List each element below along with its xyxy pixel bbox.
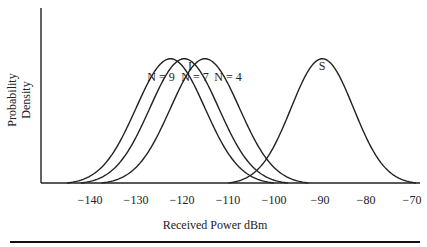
x-tick-label: −100 <box>262 193 287 207</box>
x-tick-label: −70 <box>403 193 422 207</box>
annotation-n9: N = 9 <box>147 70 174 84</box>
x-tick-label: −130 <box>124 193 149 207</box>
x-axis-title: Received Power dBm <box>163 218 268 232</box>
y-axis-title-line2: Density <box>19 81 33 118</box>
annotation-s: S <box>319 59 326 73</box>
annotation-n4: N = 4 <box>214 70 241 84</box>
annotation-n7: N = 7 <box>181 70 208 84</box>
x-tick-label: −140 <box>78 193 103 207</box>
curve-s <box>228 59 415 183</box>
x-tick-label: −120 <box>170 193 195 207</box>
x-tick-label: −110 <box>216 193 240 207</box>
x-tick-label: −90 <box>311 193 330 207</box>
y-axis-title-line1: Probability <box>5 73 19 126</box>
x-tick-label: −80 <box>357 193 376 207</box>
probability-density-chart: −140−130−120−110−100−90−80−70 I N = 9 N … <box>0 0 427 247</box>
x-tick-labels: −140−130−120−110−100−90−80−70 <box>78 193 422 207</box>
